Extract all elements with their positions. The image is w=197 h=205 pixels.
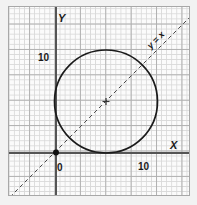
math-graph-figure: Y 10 10 0 y = x X <box>0 0 197 205</box>
center-point-marker <box>103 98 110 105</box>
x-axis-tick-label-10: 10 <box>138 162 149 172</box>
x-axis-label: X <box>170 140 177 151</box>
origin-label: 0 <box>57 163 63 173</box>
origin-point-marker <box>53 150 59 156</box>
plot-area: Y 10 10 0 y = x <box>8 6 190 196</box>
y-axis-tick-label-10: 10 <box>38 53 49 63</box>
y-axis-label: Y <box>58 13 65 24</box>
